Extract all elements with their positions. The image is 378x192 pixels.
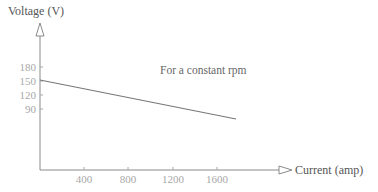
x-axis-title: Current (amp) bbox=[295, 163, 363, 177]
annotation-constant-rpm: For a constant rpm bbox=[160, 64, 247, 77]
x-tick-label: 1200 bbox=[162, 173, 185, 185]
x-tick-label: 1600 bbox=[206, 173, 229, 185]
chart: Voltage (V) Current (amp) 180 150 120 90… bbox=[0, 0, 378, 192]
y-tick-label: 90 bbox=[25, 103, 37, 115]
y-axis-arrow-icon bbox=[36, 23, 44, 36]
y-axis-title: Voltage (V) bbox=[8, 4, 64, 18]
y-tick-label: 120 bbox=[20, 89, 37, 101]
x-tick-label: 800 bbox=[120, 173, 137, 185]
y-tick-label: 150 bbox=[20, 75, 37, 87]
y-ticks: 180 150 120 90 bbox=[20, 61, 44, 115]
x-axis-arrow-icon bbox=[279, 166, 292, 174]
x-tick-label: 400 bbox=[76, 173, 93, 185]
voltage-current-line bbox=[40, 80, 236, 119]
y-tick-label: 180 bbox=[20, 61, 37, 73]
